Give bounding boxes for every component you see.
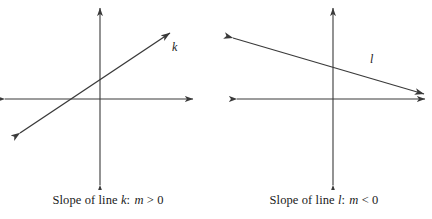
caption-line-l: Slope of line l: m < 0	[216, 193, 432, 208]
line-l-label: l	[370, 52, 374, 66]
axes-group-k	[5, 8, 193, 185]
line-k	[20, 33, 170, 133]
caption-l-slope-var: m	[348, 193, 358, 207]
panel-line-k: k Slope of line k: m > 0	[0, 0, 216, 219]
line-k-label: k	[172, 40, 178, 54]
line-l	[233, 38, 424, 94]
graph-line-l: l	[216, 0, 432, 190]
caption-k-relation: > 0	[147, 193, 164, 207]
caption-line-k: Slope of line k: m > 0	[0, 193, 216, 208]
caption-l-relation: < 0	[362, 193, 379, 207]
panel-line-l: l Slope of line l: m < 0	[216, 0, 432, 219]
caption-k-separator: :	[127, 193, 131, 207]
caption-k-prefix: Slope of line	[53, 193, 118, 207]
caption-l-prefix: Slope of line	[270, 193, 335, 207]
axes-group-l	[237, 8, 425, 185]
slope-figure: k Slope of line k: m > 0	[0, 0, 432, 219]
caption-k-slope-var: m	[133, 193, 143, 207]
graph-line-k: k	[0, 0, 216, 190]
caption-l-separator: :	[342, 193, 346, 207]
